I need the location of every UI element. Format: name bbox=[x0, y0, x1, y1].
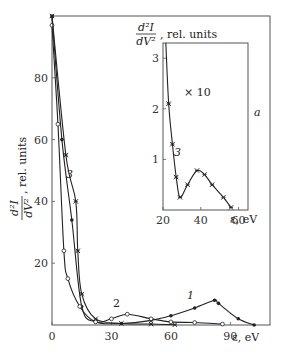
svg-text:1: 1 bbox=[152, 153, 159, 166]
svg-text:40: 40 bbox=[194, 214, 208, 227]
svg-text:30: 30 bbox=[104, 330, 118, 343]
svg-text:3: 3 bbox=[152, 52, 159, 65]
svg-text:20: 20 bbox=[156, 214, 170, 227]
svg-text:80: 80 bbox=[34, 72, 48, 85]
x-axis-label: ε, eV bbox=[232, 331, 260, 344]
inset-plot: 204060123 bbox=[152, 43, 248, 227]
svg-text:2: 2 bbox=[152, 103, 159, 116]
inset-x-label: ε, eV bbox=[230, 213, 258, 226]
svg-text:40: 40 bbox=[34, 195, 48, 208]
svg-text:60: 60 bbox=[164, 330, 178, 343]
inset-y-label-den: dV² bbox=[136, 35, 155, 48]
inset-annotation: × 10 bbox=[184, 86, 211, 99]
curve-label-1: 1 bbox=[187, 289, 194, 302]
svg-text:20: 20 bbox=[34, 257, 48, 270]
svg-text:dV²: dV² bbox=[22, 198, 35, 217]
curve-label-2: 2 bbox=[113, 297, 120, 310]
curve-label-3: 3 bbox=[66, 168, 73, 181]
panel-label: a bbox=[254, 106, 261, 119]
chart-canvas: 030609020406080 204060123 d²I dV² , rel.… bbox=[0, 0, 285, 355]
inset-curve-label-3: 3 bbox=[174, 146, 181, 159]
y-axis-label: d²I dV² , rel. units bbox=[8, 137, 35, 220]
inset-y-label-suffix: , rel. units bbox=[160, 28, 217, 41]
svg-text:d²I: d²I bbox=[8, 199, 21, 215]
svg-text:, rel. units: , rel. units bbox=[16, 137, 29, 194]
inset-y-label-num: d²I bbox=[138, 21, 154, 34]
svg-text:0: 0 bbox=[49, 330, 56, 343]
svg-text:60: 60 bbox=[34, 134, 48, 147]
